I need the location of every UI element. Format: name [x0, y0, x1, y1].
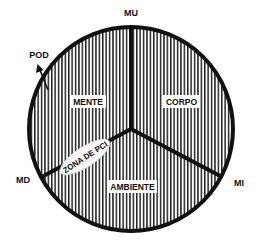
- arrowhead-icon: [36, 64, 44, 73]
- sector-label-ambiente: AMBIENTE: [108, 180, 157, 193]
- label-md: MD: [16, 175, 30, 185]
- label-mu: MU: [124, 8, 138, 18]
- sector-label-ambiente-text: AMBIENTE: [110, 182, 155, 192]
- label-mi: MI: [234, 178, 244, 188]
- sector-label-corpo-text: CORPO: [166, 97, 198, 107]
- three-sector-circle-diagram: MENTE CORPO AMBIENTE ZONA DE PCI MU MD M…: [0, 0, 258, 248]
- label-pod: POD: [29, 50, 49, 60]
- sector-label-mente: MENTE: [70, 95, 106, 108]
- sector-label-corpo: CORPO: [163, 95, 200, 108]
- sector-label-mente-text: MENTE: [73, 97, 103, 107]
